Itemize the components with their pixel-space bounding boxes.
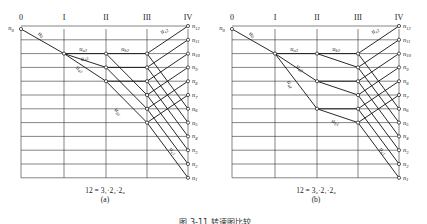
speed-label-n4: n4 bbox=[403, 132, 409, 141]
speed-node bbox=[186, 52, 189, 55]
speed-node bbox=[186, 135, 189, 138]
speed-label-n7: n7 bbox=[192, 91, 198, 100]
speed-node bbox=[356, 66, 359, 69]
speed-node bbox=[145, 52, 148, 55]
shaft-label: I bbox=[63, 13, 66, 22]
speed-node bbox=[397, 52, 400, 55]
speed-node bbox=[186, 24, 189, 27]
speed-label-n3: n3 bbox=[403, 146, 409, 155]
formula-a: 12 = 3₁·2₃·2₆ bbox=[45, 186, 165, 195]
speed-node bbox=[186, 107, 189, 110]
transmission-line bbox=[106, 67, 147, 108]
speed-node bbox=[397, 176, 400, 179]
speed-label-n12: n12 bbox=[403, 22, 412, 31]
speed-label-n9: n9 bbox=[192, 63, 198, 72]
speed-node bbox=[104, 66, 107, 69]
transmission-line bbox=[317, 81, 358, 95]
speed-node bbox=[186, 80, 189, 83]
speed-label-n2: n2 bbox=[403, 160, 409, 169]
speed-node bbox=[186, 93, 189, 96]
shaft-label: I bbox=[274, 13, 277, 22]
label-ub2: ub2 bbox=[332, 45, 341, 54]
speed-node bbox=[397, 162, 400, 165]
speed-label-n5: n5 bbox=[403, 119, 409, 128]
formula-b: 12 = 3₂·2₁·2₆ bbox=[256, 186, 376, 195]
speed-label-n8: n8 bbox=[403, 77, 409, 86]
label-ua3: ua3 bbox=[290, 45, 299, 54]
label-ub1: ub1 bbox=[112, 106, 123, 117]
speed-node bbox=[315, 80, 318, 83]
shaft-label: III bbox=[354, 13, 362, 22]
transmission-line bbox=[106, 81, 147, 122]
speed-node bbox=[145, 107, 148, 110]
speed-node bbox=[397, 93, 400, 96]
speed-node bbox=[186, 162, 189, 165]
speed-node bbox=[397, 38, 400, 41]
speed-node bbox=[186, 149, 189, 152]
speed-node bbox=[145, 121, 148, 124]
speed-node bbox=[397, 24, 400, 27]
label-ub2: ub2 bbox=[121, 45, 130, 54]
label-ub1: ub1 bbox=[331, 117, 341, 127]
label-ua2: ua2 bbox=[294, 62, 306, 74]
shaft-label: II bbox=[314, 13, 320, 22]
speed-node bbox=[273, 52, 276, 55]
figure-caption: 图 3-11 转速图比较 bbox=[150, 216, 280, 224]
speed-node bbox=[186, 66, 189, 69]
speed-label-n7: n7 bbox=[403, 91, 409, 100]
label-ua1: ua1 bbox=[74, 63, 85, 74]
speed-node bbox=[315, 52, 318, 55]
speed-label-n4: n4 bbox=[192, 132, 198, 141]
speed-node bbox=[186, 38, 189, 41]
speed-label-n1: n1 bbox=[403, 174, 409, 183]
label-uc1: uc1 bbox=[168, 145, 179, 156]
speed-node bbox=[397, 149, 400, 152]
speed-label-n8: n8 bbox=[192, 77, 198, 86]
transmission-line bbox=[317, 54, 358, 68]
speed-node bbox=[145, 66, 148, 69]
speed-node bbox=[230, 27, 233, 30]
speed-label-n1: n1 bbox=[192, 174, 198, 183]
speed-label-n9: n9 bbox=[403, 63, 409, 72]
label-ua3: ua3 bbox=[79, 45, 88, 54]
speed-label-n2: n2 bbox=[192, 160, 198, 169]
sublabel-a: (a) bbox=[45, 195, 165, 204]
speed-node bbox=[397, 107, 400, 110]
speed-label-n6: n6 bbox=[192, 105, 198, 114]
shaft-label: 0 bbox=[19, 13, 23, 22]
speed-node bbox=[186, 176, 189, 179]
speed-label-n5: n5 bbox=[192, 119, 198, 128]
shaft-label: II bbox=[103, 13, 109, 22]
speed-node bbox=[145, 80, 148, 83]
speed-label-n11: n11 bbox=[192, 36, 199, 45]
speed-node bbox=[104, 80, 107, 83]
speed-node bbox=[397, 135, 400, 138]
shaft-label: IV bbox=[395, 13, 404, 22]
speed-node bbox=[145, 93, 148, 96]
speed-node bbox=[397, 66, 400, 69]
speed-node bbox=[356, 52, 359, 55]
transmission-line bbox=[317, 109, 358, 123]
speed-label-n3: n3 bbox=[192, 146, 198, 155]
speed-label-n6: n6 bbox=[403, 105, 409, 114]
sublabel-b: (b) bbox=[256, 195, 376, 204]
speed-node bbox=[356, 107, 359, 110]
label-ua1: ua1 bbox=[285, 79, 296, 90]
speed-label-n10: n10 bbox=[192, 50, 201, 59]
speed-node bbox=[397, 80, 400, 83]
speed-label-n12: n12 bbox=[192, 22, 201, 31]
speed-label-n0: n0 bbox=[219, 24, 225, 33]
speed-node bbox=[186, 121, 189, 124]
shaft-label: IV bbox=[184, 13, 193, 22]
speed-node bbox=[356, 121, 359, 124]
transmission-line bbox=[106, 54, 147, 95]
speed-label-n11: n11 bbox=[403, 36, 410, 45]
speed-label-n0: n0 bbox=[8, 24, 14, 33]
speed-node bbox=[356, 93, 359, 96]
speed-label-n10: n10 bbox=[403, 50, 412, 59]
speed-node bbox=[356, 80, 359, 83]
speed-node bbox=[104, 52, 107, 55]
speed-node bbox=[19, 27, 22, 30]
speed-node bbox=[397, 121, 400, 124]
shaft-label: III bbox=[143, 13, 151, 22]
